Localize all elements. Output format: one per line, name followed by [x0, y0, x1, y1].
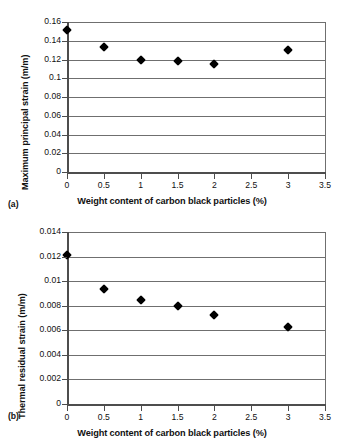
x-tick-label: 2: [194, 180, 234, 190]
x-axis-tick: [141, 406, 142, 411]
y-tick-label: 0.012: [3, 251, 61, 261]
y-tick-label: 0: [3, 166, 61, 176]
y-tick-label: 0.006: [3, 324, 61, 334]
x-axis-tick: [288, 174, 289, 179]
x-axis-tick: [67, 406, 68, 411]
x-tick-label: 1: [121, 180, 161, 190]
y-axis-tick: [62, 281, 67, 282]
y-tick-label: 0.08: [3, 91, 61, 101]
y-tick-label: 0.16: [3, 16, 61, 26]
y-tick-label: 0: [3, 398, 61, 408]
x-tick-label: 0: [47, 412, 87, 422]
data-point: [62, 25, 72, 35]
y-axis-tick: [62, 116, 67, 117]
y-tick-label: 0.04: [3, 129, 61, 139]
y-axis-tick: [62, 232, 67, 233]
y-axis-tick: [62, 78, 67, 79]
x-tick-label: 1: [121, 412, 161, 422]
x-axis-tick: [214, 406, 215, 411]
plot-frame-right: [325, 232, 326, 404]
chart-panel-a: Maximum principal strain (m/m) 00.020.04…: [0, 0, 344, 225]
x-axis-tick: [288, 406, 289, 411]
panel-label-a: (a): [8, 199, 19, 209]
plot-area-b: [67, 232, 325, 404]
x-tick-label: 2: [194, 412, 234, 422]
x-axis-tick: [325, 406, 326, 411]
data-point: [283, 45, 293, 55]
y-tick-label: 0.008: [3, 300, 61, 310]
x-axis-title-a: Weight content of carbon black particles…: [0, 196, 344, 206]
y-axis-tick: [62, 172, 67, 173]
x-tick-label: 3: [268, 412, 308, 422]
figure-container: Maximum principal strain (m/m) 00.020.04…: [0, 0, 344, 446]
x-axis-tick: [214, 174, 215, 179]
panel-label-b: (b): [8, 411, 19, 421]
x-tick-label: 2.5: [231, 412, 271, 422]
data-point: [209, 59, 219, 69]
x-tick-label: 0.5: [84, 412, 124, 422]
y-tick-label: 0.14: [3, 35, 61, 45]
plot-frame-right: [325, 22, 326, 172]
x-axis-tick: [325, 174, 326, 179]
y-axis-tick: [62, 306, 67, 307]
y-tick-label: 0.02: [3, 147, 61, 157]
x-tick-label: 3: [268, 180, 308, 190]
y-axis-tick: [62, 355, 67, 356]
x-tick-label: 0.5: [84, 180, 124, 190]
y-tick-label: 0.004: [3, 349, 61, 359]
y-axis-tick: [62, 257, 67, 258]
x-axis-tick: [67, 174, 68, 179]
data-point: [173, 56, 183, 66]
y-tick-label: 0.12: [3, 54, 61, 64]
x-axis-tick: [104, 174, 105, 179]
chart-panel-b: Thermal residual strain (m/m) 00.0020.00…: [0, 219, 344, 446]
data-point: [99, 42, 109, 52]
x-axis-tick: [104, 406, 105, 411]
x-tick-label: 0: [47, 180, 87, 190]
y-axis-tick: [62, 22, 67, 23]
data-points-b: [67, 232, 325, 404]
x-axis-tick: [141, 174, 142, 179]
y-axis-tick: [62, 404, 67, 405]
y-axis-tick: [62, 41, 67, 42]
y-tick-label: 0.01: [3, 275, 61, 285]
x-axis-title-b: Weight content of carbon black particles…: [0, 428, 344, 438]
x-axis-tick: [251, 174, 252, 179]
y-axis-tick: [62, 135, 67, 136]
x-axis-tick: [251, 406, 252, 411]
data-point: [136, 295, 146, 305]
data-point: [173, 301, 183, 311]
plot-area-a: [67, 22, 325, 172]
y-tick-label: 0.014: [3, 226, 61, 236]
data-point: [283, 323, 293, 333]
y-axis-tick: [62, 153, 67, 154]
y-axis-tick: [62, 330, 67, 331]
y-tick-label: 0.002: [3, 373, 61, 383]
x-axis-tick: [178, 406, 179, 411]
y-axis-tick: [62, 60, 67, 61]
x-axis-tick: [178, 174, 179, 179]
data-point: [136, 55, 146, 65]
data-point: [99, 284, 109, 294]
y-tick-label: 0.06: [3, 110, 61, 120]
x-tick-label: 2.5: [231, 180, 271, 190]
x-tick-label: 3.5: [305, 180, 344, 190]
x-tick-label: 1.5: [158, 180, 198, 190]
data-point: [209, 310, 219, 320]
y-tick-label: 0.1: [3, 72, 61, 82]
y-axis-tick: [62, 379, 67, 380]
data-points-a: [67, 22, 325, 172]
x-tick-label: 1.5: [158, 412, 198, 422]
data-point: [62, 250, 72, 260]
x-tick-label: 3.5: [305, 412, 344, 422]
y-axis-tick: [62, 97, 67, 98]
